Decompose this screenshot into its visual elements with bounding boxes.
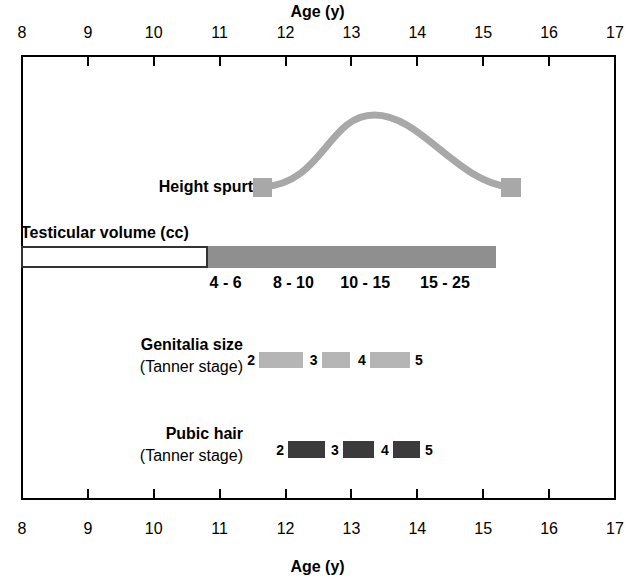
pubic-hair-stage-number-2: 2: [276, 442, 284, 458]
genitalia-stage-number-3: 3: [310, 352, 318, 368]
bottom-tick-label-11: 11: [200, 520, 240, 538]
bottom-tick-label-14: 14: [397, 520, 437, 538]
testicular-volume-value-4: 15 - 25: [405, 274, 485, 292]
testicular-prepubertal-bar: [21, 246, 208, 268]
height-spurt-end-marker: [501, 178, 521, 197]
testicular-pubertal-bar: [208, 246, 496, 268]
pubic-hair-stage-number-3: 3: [331, 442, 339, 458]
bottom-tick-label-16: 16: [529, 520, 569, 538]
pubic-hair-bar-3-to-4: [343, 441, 374, 458]
genitalia-size-sublabel: (Tanner stage): [140, 358, 243, 376]
testicular-volume-value-2: 8 - 10: [253, 274, 333, 292]
pubic-hair-bar-2-to-3: [288, 441, 325, 458]
genitalia-stage-number-4: 4: [358, 352, 366, 368]
height-spurt-curve: [0, 0, 635, 585]
bottom-tick-label-9: 9: [68, 520, 108, 538]
height-spurt-start-marker: [253, 178, 272, 197]
genitalia-stage-number-5: 5: [415, 352, 423, 368]
pubic-hair-stage-number-4: 4: [381, 442, 389, 458]
bottom-tick-label-10: 10: [134, 520, 174, 538]
bottom-tick-label-17: 17: [595, 520, 635, 538]
bottom-tick-label-12: 12: [266, 520, 306, 538]
pubic-hair-bar-4-to-5: [393, 441, 420, 458]
pubic-hair-stage-number-5: 5: [425, 442, 433, 458]
genitalia-bar-3-to-4: [322, 352, 350, 368]
genitalia-size-label: Genitalia size: [141, 336, 243, 354]
bottom-tick-label-8: 8: [2, 520, 42, 538]
testicular-volume-label: Testicular volume (cc): [21, 224, 189, 242]
bottom-axis-title: Age (y): [0, 558, 635, 576]
bottom-tick-label-15: 15: [463, 520, 503, 538]
testicular-volume-value-3: 10 - 15: [325, 274, 405, 292]
pubic-hair-label: Pubic hair: [166, 425, 243, 443]
bottom-tick-label-13: 13: [331, 520, 371, 538]
genitalia-bar-2-to-3: [259, 352, 303, 368]
genitalia-stage-number-2: 2: [247, 352, 255, 368]
puberty-timeline-figure: Age (y) 891011121314151617 Height spurt …: [0, 0, 635, 585]
genitalia-bar-4-to-5: [370, 352, 410, 368]
pubic-hair-sublabel: (Tanner stage): [140, 447, 243, 465]
